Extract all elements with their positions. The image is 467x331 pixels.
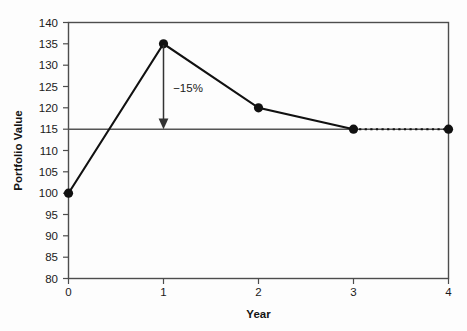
line-chart: 140 135 130 125 120 115 110 105 100 95 9… (0, 0, 467, 331)
y-tick-label: 80 (45, 273, 58, 285)
x-axis-tick-labels: 0 1 2 3 4 (65, 286, 452, 298)
y-axis-tick-labels: 140 135 130 125 120 115 110 105 100 95 9… (39, 17, 58, 285)
portfolio-value-line (69, 44, 354, 193)
data-point-year-0 (64, 189, 73, 198)
data-point-year-2 (254, 103, 263, 112)
data-point-year-3 (349, 125, 358, 134)
y-tick-label: 130 (39, 59, 58, 71)
drawdown-arrow-head (159, 119, 169, 130)
x-tick-label: 4 (445, 286, 452, 298)
y-tick-label: 140 (39, 17, 58, 29)
y-tick-label: 125 (39, 81, 58, 93)
y-tick-label: 90 (45, 230, 58, 242)
y-axis-ticks (63, 23, 69, 279)
x-tick-label: 3 (350, 286, 356, 298)
chart-figure: 140 135 130 125 120 115 110 105 100 95 9… (0, 0, 467, 331)
y-tick-label: 115 (40, 123, 58, 135)
x-tick-label: 0 (65, 286, 71, 298)
y-tick-label: 110 (40, 145, 58, 157)
y-tick-label: 135 (39, 38, 58, 50)
drawdown-annotation: −15% (159, 45, 203, 129)
x-tick-label: 1 (160, 286, 166, 298)
data-point-markers (64, 39, 453, 198)
drawdown-label: −15% (173, 82, 203, 94)
x-tick-label: 2 (255, 286, 261, 298)
plot-frame (69, 23, 449, 279)
y-tick-label: 95 (45, 209, 58, 221)
y-axis-title: Portfolio Value (12, 110, 24, 191)
data-point-year-4 (444, 125, 453, 134)
y-tick-label: 85 (45, 251, 58, 263)
y-tick-label: 100 (39, 187, 58, 199)
y-tick-label: 120 (39, 102, 58, 114)
x-axis-ticks (69, 279, 449, 285)
x-axis-title: Year (246, 308, 271, 320)
y-tick-label: 105 (39, 166, 58, 178)
